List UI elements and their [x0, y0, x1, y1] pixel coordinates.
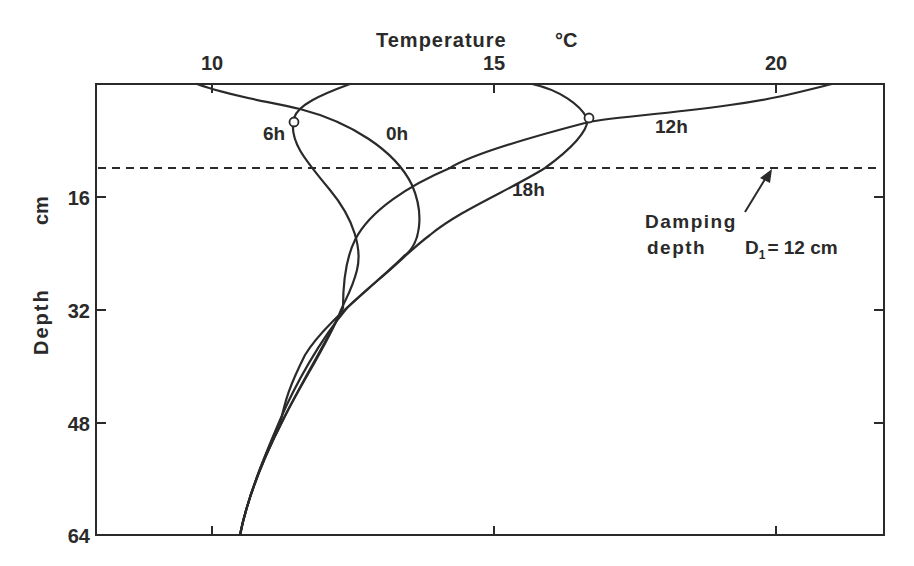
label-0h: 0h	[386, 123, 408, 144]
damping-arrow	[745, 169, 772, 212]
x-axis-title: Temperature	[376, 29, 507, 51]
x-tick-10: 10	[201, 52, 223, 74]
x-axis-ticks	[212, 84, 776, 535]
curve-12h	[240, 84, 832, 535]
damping-label-line2: depth	[647, 237, 706, 258]
curve-6h	[240, 84, 359, 535]
marker-12h-max	[585, 114, 594, 123]
x-tick-15: 15	[483, 52, 505, 74]
arrow-head-icon	[760, 169, 772, 183]
x-tick-20: 20	[765, 52, 787, 74]
y-tick-16: 16	[68, 187, 90, 209]
damping-label-line1: Damping	[645, 211, 737, 232]
y-tick-64: 64	[68, 525, 91, 547]
y-tick-48: 48	[68, 413, 90, 435]
marker-6h-min	[290, 118, 299, 127]
temperature-depth-chart: 10 15 20 Temperature °C 16 32 48 64 Dept…	[0, 0, 914, 566]
label-12h: 12h	[655, 116, 688, 137]
label-6h: 6h	[263, 123, 285, 144]
y-axis-ticks	[96, 197, 884, 423]
y-axis-unit: cm	[30, 196, 52, 225]
curve-18h	[240, 84, 587, 535]
y-axis-title: Depth	[30, 288, 52, 355]
x-axis-unit: °C	[555, 29, 577, 51]
label-18h: 18h	[512, 179, 545, 200]
curve-0h	[197, 84, 419, 535]
damping-symbol: D1= 12 cm	[745, 237, 838, 262]
y-tick-32: 32	[68, 300, 90, 322]
